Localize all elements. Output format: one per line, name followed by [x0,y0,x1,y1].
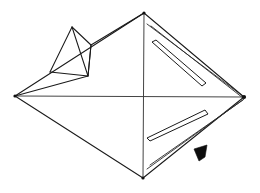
body-horizontal-midline [15,96,244,97]
tetrahedron-edge-apex-left [50,27,72,72]
body-vertical-midline [143,13,144,178]
vertex-bottom-dot [141,176,144,179]
tetrahedron-edge-base-front [50,72,88,76]
lower-right-slot [147,110,208,141]
vertex-right-dot [242,95,246,99]
tetrahedron-edge-base-right [88,45,91,76]
drawing-canvas [0,0,260,193]
upper-right-face-rim-inner [151,26,243,98]
line-drawing-svg [0,0,260,193]
body-outline [15,13,244,178]
vertex-top-dot [142,11,145,14]
solid-arrow-marker [194,145,207,161]
vertex-left-dot [13,94,16,97]
